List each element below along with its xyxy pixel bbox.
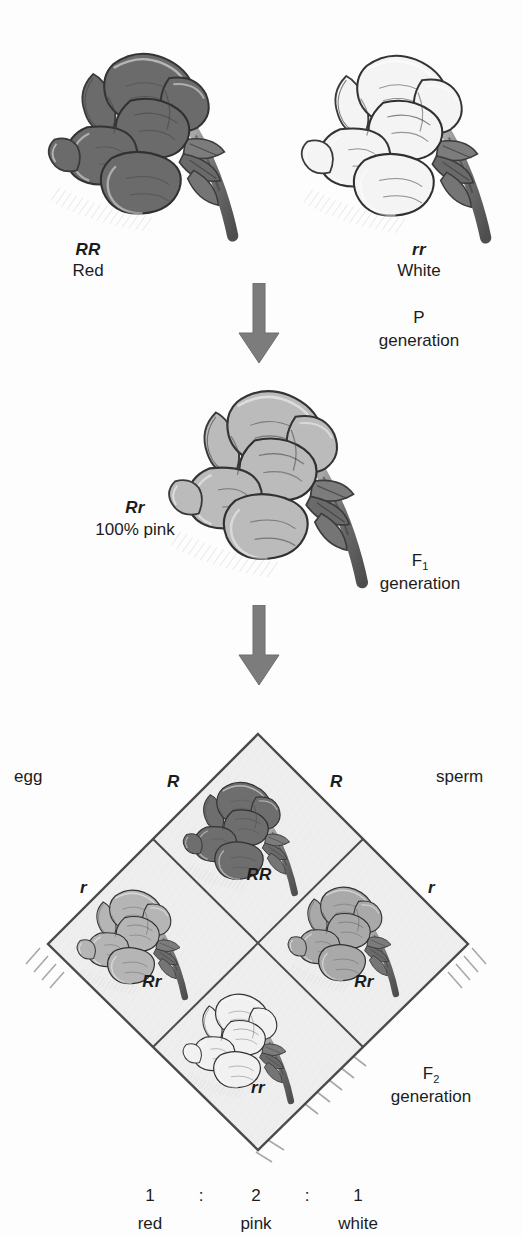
p-left-genotype-label: RR [75,240,100,260]
punnett-genotype-bottom: rr [251,1078,265,1098]
punnett-genotype-left: Rr [142,972,162,992]
f1-phenotype-label: 100% pink [95,520,174,540]
f1-generation-pink-flower-illustration [160,363,375,591]
punnett-allele-top-right: R [330,772,343,792]
f1-generation-label-line2: generation [380,574,460,594]
p-left-phenotype-label: Red [72,261,103,281]
ratio-number-white: 1 [353,1186,362,1206]
punnett-allele-bottom-right: r [428,878,435,898]
f2-generation-label: F2 [423,1064,440,1086]
f2-generation-subscript: 2 [433,1073,439,1085]
ratio-phenotype-red: red [138,1214,163,1234]
f1-generation-subscript: 1 [422,560,428,572]
punnett-genotype-right: Rr [354,972,374,992]
punnett-sperm-axis-label: sperm [436,767,483,787]
p-generation-white-flower-illustration [293,30,498,245]
ratio-phenotype-white: white [338,1214,378,1234]
ratio-number-pink: 2 [251,1186,260,1206]
f1-genotype-label: Rr [125,498,145,518]
punnett-allele-top-left: R [167,772,180,792]
ratio-separator-1: : [199,1186,204,1206]
p-right-phenotype-label: White [397,261,440,281]
p-generation-label-line1: P [413,308,424,328]
ratio-separator-2: : [305,1186,310,1206]
p-right-genotype-label: rr [412,240,426,260]
punnett-genotype-top: RR [246,865,271,885]
p-generation-label-line2: generation [379,331,459,351]
ratio-number-red: 1 [145,1186,154,1206]
punnett-square: egg sperm R R r r RR Rr Rr rr F2 generat… [0,700,523,1170]
f1-to-f2-arrow [231,605,287,687]
p-to-f1-arrow [231,283,287,365]
f1-generation-label: F1 [412,551,429,573]
p-generation-red-flower-illustration: use{--x:0} [40,28,245,243]
f2-generation-label-line2: generation [391,1087,471,1107]
punnett-allele-bottom-left: r [80,878,87,898]
ratio-phenotype-pink: pink [240,1214,271,1234]
punnett-egg-axis-label: egg [14,767,42,787]
